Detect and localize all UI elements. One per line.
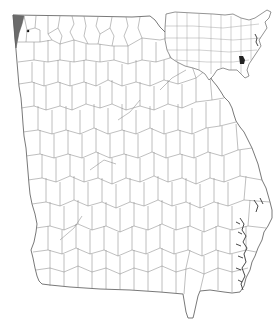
georgia-map: [0, 0, 275, 334]
locator-map: Georgia county locator map: [0, 0, 275, 334]
